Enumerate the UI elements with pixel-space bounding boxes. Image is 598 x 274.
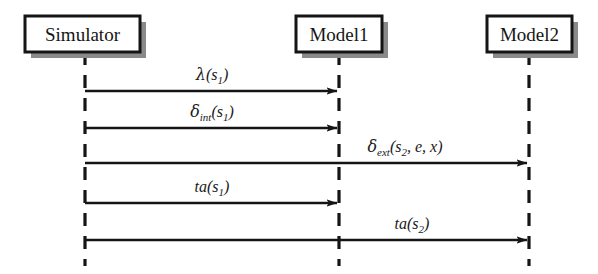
participant-model2-label: Model2 (500, 24, 559, 45)
message-delta-ext-s2-e-x-label: δext(s2, e, x) (367, 137, 442, 158)
message-ta-s1[interactable]: ta(s1) (85, 178, 337, 203)
sequence-diagram: Simulator Model1 Model2 λ(s1) δint(s1) (0, 0, 598, 274)
participant-model1-label: Model1 (309, 24, 368, 45)
message-lambda-s1[interactable]: λ(s1) (85, 65, 337, 91)
message-delta-ext-s2-e-x[interactable]: δext(s2, e, x) (85, 137, 527, 163)
message-lambda-s1-label: λ(s1) (195, 65, 229, 86)
message-delta-int-s1-label: δint(s1) (190, 102, 234, 123)
participant-simulator[interactable]: Simulator (25, 16, 146, 58)
message-ta-s2-label: ta(s2) (395, 215, 430, 235)
participant-simulator-label: Simulator (45, 24, 121, 45)
message-ta-s2[interactable]: ta(s2) (85, 215, 527, 240)
lifelines-group (85, 52, 529, 266)
message-delta-int-s1[interactable]: δint(s1) (85, 102, 337, 128)
diagram-canvas: Simulator Model1 Model2 λ(s1) δint(s1) (0, 0, 598, 274)
participant-model2[interactable]: Model2 (487, 16, 578, 58)
message-ta-s1-label: ta(s1) (195, 178, 230, 198)
participant-model1[interactable]: Model1 (296, 16, 388, 58)
